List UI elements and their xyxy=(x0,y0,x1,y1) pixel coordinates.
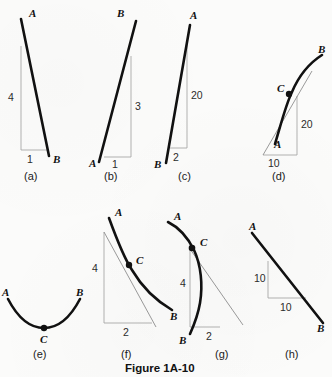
panel-e-point-c-dot xyxy=(41,325,47,331)
panel-b-line xyxy=(99,21,136,162)
panel-b-point-a-label: A xyxy=(88,157,96,169)
panel-c-line xyxy=(166,25,190,163)
panel-b-point-b-label: B xyxy=(116,7,124,19)
panel-d-curve xyxy=(275,55,322,144)
figure-canvas: A B 4 1 (a) B A 3 1 (b) A B 20 2 (c) xyxy=(0,0,332,377)
panel-d-point-c-dot xyxy=(286,91,292,97)
panel-h-point-b-label: B xyxy=(316,322,324,334)
panel-c-point-a-label: A xyxy=(189,9,197,21)
panel-d-caption: (d) xyxy=(272,170,285,182)
figure-caption: Figure 1A-10 xyxy=(125,362,195,374)
panel-a-run-label: 1 xyxy=(27,153,33,165)
panel-g-point-c-label: C xyxy=(200,236,208,248)
panel-b-caption: (b) xyxy=(104,170,117,182)
panel-g-point-b-label: B xyxy=(178,334,186,346)
panel-a-rise-label: 4 xyxy=(8,91,14,103)
panel-b-rise-label: 3 xyxy=(135,100,141,112)
panel-e: A B C (e) xyxy=(1,286,83,360)
panel-f-rise-label: 4 xyxy=(92,262,98,274)
panel-e-point-c-label: C xyxy=(40,333,48,345)
panel-h-point-a-label: A xyxy=(248,220,256,232)
panel-f-tangent-line xyxy=(104,232,156,327)
panel-g: A C B 4 2 (g) xyxy=(168,210,243,360)
panel-g-caption: (g) xyxy=(215,348,228,360)
panel-f-point-b-label: B xyxy=(169,310,177,322)
panel-c: A B 20 2 (c) xyxy=(153,9,203,182)
panel-c-run-label: 2 xyxy=(173,151,179,163)
panel-e-caption: (e) xyxy=(33,348,46,360)
panel-d: C B A 20 10 (d) xyxy=(263,43,325,182)
panel-a-point-b-label: B xyxy=(52,153,60,165)
panel-c-caption: (c) xyxy=(178,170,191,182)
panel-f-run-label: 2 xyxy=(123,326,129,338)
panel-b-run-label: 1 xyxy=(112,158,118,170)
panel-b: B A 3 1 (b) xyxy=(88,7,141,182)
panel-a-point-a-label: A xyxy=(28,7,36,19)
panel-d-rise-label: 20 xyxy=(301,118,313,130)
panel-c-rise-label: 20 xyxy=(191,89,203,101)
panel-h-rise-label: 10 xyxy=(254,272,266,284)
panel-e-point-a-label: A xyxy=(1,286,9,298)
panel-f: A C B 4 2 (f) xyxy=(92,206,177,360)
panel-d-point-c-label: C xyxy=(277,82,285,94)
panel-b-triangle xyxy=(104,56,131,157)
panel-g-triangle xyxy=(190,249,220,327)
figure-container: A B 4 1 (a) B A 3 1 (b) A B 20 2 (c) xyxy=(0,0,332,377)
panel-e-curve xyxy=(8,299,80,328)
panel-e-point-b-label: B xyxy=(75,286,83,298)
panel-c-point-b-label: B xyxy=(153,158,161,170)
panel-f-point-a-label: A xyxy=(114,206,122,218)
panel-f-point-c-label: C xyxy=(136,254,144,266)
panel-d-point-a-label: A xyxy=(273,138,281,150)
panel-d-run-label: 10 xyxy=(268,157,280,169)
panel-g-point-a-label: A xyxy=(173,210,181,222)
panel-a-caption: (a) xyxy=(24,170,37,182)
panel-f-caption: (f) xyxy=(121,348,131,360)
panel-h-run-label: 10 xyxy=(280,301,292,313)
panel-a: A B 4 1 (a) xyxy=(8,7,60,182)
panel-h-caption: (h) xyxy=(285,348,298,360)
panel-f-point-c-dot xyxy=(126,262,132,268)
panel-d-point-b-label: B xyxy=(317,43,325,55)
panel-g-run-label: 2 xyxy=(206,330,212,342)
panel-d-tangent-line xyxy=(263,71,312,155)
panel-a-line xyxy=(21,19,49,156)
panel-g-rise-label: 4 xyxy=(180,277,186,289)
panel-g-point-c-dot xyxy=(189,245,196,252)
panel-h: A B 10 10 (h) xyxy=(248,220,324,360)
